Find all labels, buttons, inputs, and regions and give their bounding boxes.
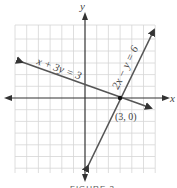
x-axis-left-arrow-icon xyxy=(4,95,12,101)
x-axis-right-arrow-icon xyxy=(162,95,170,101)
x-axis-label: x xyxy=(169,92,175,104)
intersection-label: (3, 0) xyxy=(115,111,137,123)
coordinate-plane: y x x + 3y = 3 2x − y = 6 (3, 0) FIGURE … xyxy=(0,0,177,188)
y-axis-label: y xyxy=(79,0,85,12)
line-label-x-plus-3y: x + 3y = 3 xyxy=(34,54,83,81)
figure-caption: FIGURE 3 xyxy=(70,184,115,188)
y-axis-up-arrow-icon xyxy=(82,12,88,20)
y-axis-down-arrow-icon xyxy=(82,174,88,182)
intersection-point xyxy=(118,96,122,100)
